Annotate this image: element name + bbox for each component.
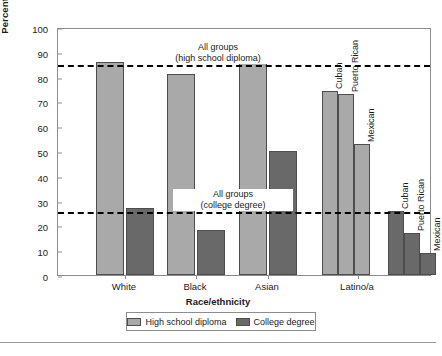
- y-axis-tick-100: 100: [22, 24, 48, 35]
- y-axis-tickmark-30: [58, 202, 62, 203]
- x-axis-category-asian: Asian: [255, 281, 279, 292]
- y-axis-tickmark-40: [58, 177, 62, 178]
- bar-latino-puerto-rican-college-degree: [404, 233, 420, 275]
- annotation-line-1: All groups: [158, 42, 278, 53]
- x-axis-category-latino-a: Latino/a: [340, 281, 374, 292]
- x-axis-category-white: White: [112, 281, 136, 292]
- y-axis-tick-10: 10: [22, 247, 48, 258]
- reference-line-annotation-college-degree: All groups(college degree): [173, 189, 293, 211]
- y-axis-tickmark-60: [58, 128, 62, 129]
- bar-black-college-degree: [197, 230, 225, 275]
- bar-label-latino-hs-mexican: Mexican: [366, 108, 376, 142]
- bar-black-high-school-diploma: [167, 74, 195, 275]
- y-axis-tick-30: 30: [22, 197, 48, 208]
- y-axis-tickmark-100: [58, 29, 62, 30]
- annotation-line-1: All groups: [173, 189, 293, 200]
- bar-latino-cuban-high-school-diploma: [322, 91, 338, 275]
- y-axis-tickmark-50: [58, 153, 62, 154]
- cropped-caption-top: [70, 1, 360, 8]
- cropped-caption-bottom: [62, 347, 378, 354]
- x-axis-label: Race/ethnicity: [0, 296, 436, 307]
- y-axis-label: Percentage who complete education: [0, 0, 10, 44]
- y-axis-tickmark-70: [58, 103, 62, 104]
- y-axis-tick-60: 60: [22, 123, 48, 134]
- bar-latino-mexican-college-degree: [420, 253, 436, 275]
- legend-item-high-school-diploma: High school diploma: [127, 317, 226, 327]
- reference-line-high-school-diploma: [58, 65, 430, 67]
- bar-label-latino-cd-cuban: Cuban: [400, 182, 410, 209]
- x-axis-tickmark-latino-a: [358, 275, 359, 279]
- bar-latino-puerto-rican-high-school-diploma: [338, 94, 354, 275]
- bar-white-college-degree: [126, 208, 154, 275]
- y-axis-tickmark-0: [58, 277, 62, 278]
- bar-label-latino-cd-mexican: Mexican: [432, 217, 442, 251]
- footer-divider: [0, 342, 436, 343]
- annotation-line-2: (high school diploma): [158, 53, 278, 64]
- y-axis-tick-0: 0: [22, 272, 48, 283]
- x-axis-category-black: Black: [183, 281, 206, 292]
- y-axis-tick-20: 20: [22, 222, 48, 233]
- legend-item-college-degree: College degree: [236, 317, 315, 327]
- reference-line-annotation-high-school-diploma: All groups(high school diploma): [158, 42, 278, 64]
- y-axis-tickmark-80: [58, 78, 62, 79]
- y-axis-tick-50: 50: [22, 148, 48, 159]
- x-axis-tickmark-black: [196, 275, 197, 279]
- chart-legend: High school diploma College degree: [126, 312, 316, 331]
- y-axis-tick-70: 70: [22, 98, 48, 109]
- y-axis-tickmark-90: [58, 53, 62, 54]
- plot-area: 0102030405060708090100CubanPuerto RicanM…: [57, 28, 431, 276]
- annotation-line-2: (college degree): [173, 200, 293, 211]
- x-axis-tickmark-white: [125, 275, 126, 279]
- bar-latino-mexican-high-school-diploma: [354, 144, 370, 275]
- bar-label-latino-cd-puerto-rican: Puerto Rican: [416, 179, 426, 231]
- legend-swatch-icon-college-degree: [236, 318, 250, 326]
- y-axis-tickmark-10: [58, 252, 62, 253]
- x-axis-tickmark-asian: [268, 275, 269, 279]
- bar-latino-cuban-college-degree: [388, 211, 404, 275]
- reference-line-college-degree: [58, 212, 430, 214]
- legend-label-college-degree: College degree: [254, 317, 315, 327]
- legend-label-high-school-diploma: High school diploma: [145, 317, 226, 327]
- y-axis-tickmark-20: [58, 227, 62, 228]
- bar-asian-high-school-diploma: [239, 57, 267, 275]
- y-axis-tick-80: 80: [22, 73, 48, 84]
- y-axis-tick-40: 40: [22, 172, 48, 183]
- bar-white-high-school-diploma: [96, 62, 124, 275]
- legend-swatch-icon-high-school-diploma: [127, 318, 141, 326]
- y-axis-tick-90: 90: [22, 48, 48, 59]
